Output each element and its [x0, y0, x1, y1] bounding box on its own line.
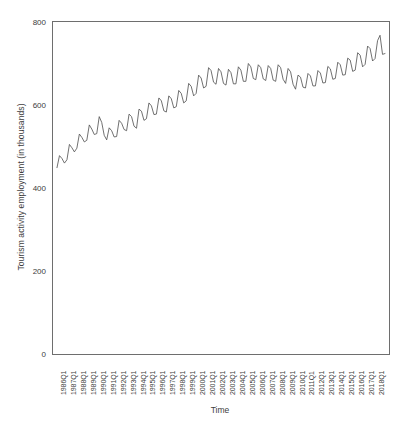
series-line-tourism-activity-employment [57, 35, 385, 167]
plot-area [0, 0, 412, 426]
chart-figure: Tourism activity employment (in thousand… [0, 0, 412, 426]
